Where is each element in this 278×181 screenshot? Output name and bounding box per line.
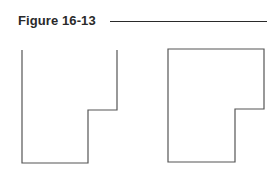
figure-diagram [0, 0, 278, 181]
open-top-l-shape [22, 50, 117, 163]
closed-l-shape [168, 49, 264, 162]
